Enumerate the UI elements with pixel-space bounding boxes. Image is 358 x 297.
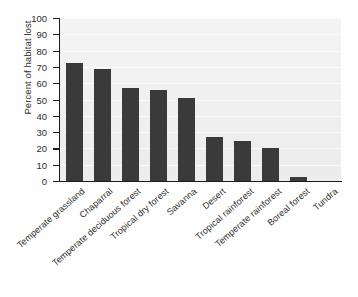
bar-chart-figure: Percent of habitat lost 0102030405060708…	[0, 0, 358, 297]
bar	[178, 98, 195, 181]
y-axis-tick-label: 40	[7, 110, 47, 121]
bar	[262, 148, 279, 181]
y-axis-tick-label: 90	[7, 29, 47, 40]
y-axis-tick-label: 0	[7, 176, 47, 187]
gridline	[60, 34, 341, 35]
gridline	[60, 51, 341, 52]
y-axis-tick	[53, 83, 59, 84]
y-axis-tick	[53, 51, 59, 52]
bar	[150, 90, 167, 181]
x-axis-line	[59, 181, 342, 182]
x-axis-tick-label: Savanna	[165, 186, 199, 217]
y-axis-tick-label: 30	[7, 127, 47, 138]
y-axis-tick-label: 10	[7, 159, 47, 170]
bar	[206, 137, 223, 181]
y-axis-line	[59, 18, 60, 182]
bar	[122, 88, 139, 181]
y-axis-tick	[53, 165, 59, 166]
y-axis-tick	[53, 116, 59, 117]
y-axis-tick	[53, 67, 59, 68]
y-axis-tick	[53, 18, 59, 19]
bar	[94, 69, 111, 181]
y-axis-tick-label: 80	[7, 45, 47, 56]
y-axis-tick	[53, 100, 59, 101]
plot-area	[60, 18, 341, 181]
bar	[66, 63, 83, 181]
y-axis-tick-label: 60	[7, 78, 47, 89]
y-axis-tick-label: 50	[7, 94, 47, 105]
y-axis-tick	[53, 34, 59, 35]
y-axis-tick	[53, 181, 59, 182]
x-axis-tick-label: Tundra	[311, 186, 339, 212]
gridline	[60, 18, 341, 19]
y-axis-tick	[53, 148, 59, 149]
y-axis-tick-label: 100	[7, 13, 47, 24]
y-axis-tick	[53, 132, 59, 133]
y-axis-tick-label: 20	[7, 143, 47, 154]
bar	[234, 141, 251, 181]
y-axis-tick-label: 70	[7, 61, 47, 72]
